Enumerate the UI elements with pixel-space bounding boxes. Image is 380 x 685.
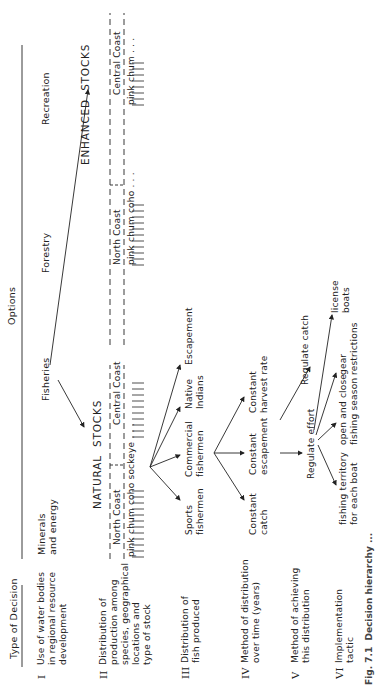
decision-label: Method of achieving this distribution	[290, 568, 312, 663]
option-minerals-energy: Minerals and energy	[36, 499, 58, 555]
type-of-decision-header: Type of Decision	[8, 578, 19, 659]
option-regulate-effort: Regulate effort	[306, 409, 317, 479]
decision-hierarchy-diagram: Type of Decision Options I Use of water …	[0, 0, 380, 685]
options-header: Options	[6, 287, 17, 325]
enhanced-central-species: pink chum . . .	[126, 38, 137, 105]
natural-central-coast: Central Coast	[112, 361, 123, 425]
option-commercial-fishermen: Commercial fishermen	[184, 421, 206, 477]
option-native-indians: Native Indians	[184, 375, 206, 409]
roman-numeral: II	[98, 671, 109, 679]
option-fishing-territory: fishing territory for each boat	[338, 452, 360, 525]
roman-numeral: V	[290, 672, 301, 679]
option-forestry: Forestry	[40, 233, 51, 273]
natural-north-species: pink chum coho sockeye . . .	[126, 423, 137, 557]
roman-numeral: I	[36, 675, 47, 679]
option-constant-catch: Constant catch	[248, 493, 270, 535]
decision-label: Implementation tactic	[334, 589, 356, 663]
decision-label: Distribution of fish produced	[180, 596, 202, 663]
option-constant-harvest-rate: Constant harvest rate	[248, 355, 270, 413]
natural-stocks-title: NATURAL STOCKS	[92, 400, 103, 509]
enhanced-north-coast: North Coast	[112, 209, 123, 265]
natural-north-coast: North Coast	[112, 489, 123, 545]
option-license-boats: license boats	[330, 280, 352, 313]
enhanced-central-coast: Central Coast	[112, 31, 123, 95]
option-open-close-season: open and close fishing season	[338, 374, 360, 445]
option-fisheries: Fisheries	[40, 358, 51, 401]
roman-numeral: VI	[334, 667, 345, 679]
enhanced-north-species: pink chum coho . . .	[126, 172, 137, 265]
option-constant-escapement: Constant escapement	[248, 418, 270, 475]
decision-label: Method of distribution over time (years)	[240, 559, 262, 663]
roman-numeral: IV	[240, 667, 251, 679]
decision-label: Distribution of production among species…	[98, 563, 153, 665]
option-regulate-catch: Regulate catch	[300, 315, 311, 385]
figure-caption: Fig. 7.1 Decision hierarchy ...	[364, 533, 374, 685]
option-escapement: Escapement	[184, 307, 195, 365]
enhanced-stocks-title: ENHANCED STOCKS	[80, 44, 91, 165]
option-recreation: Recreation	[40, 72, 51, 125]
roman-numeral: III	[180, 667, 191, 679]
option-sports-fishermen: Sports fishermen	[184, 488, 206, 535]
decision-label: Use of water bodies in regional resource…	[36, 572, 69, 665]
option-gear-restrictions: gear restrictions	[338, 322, 360, 375]
